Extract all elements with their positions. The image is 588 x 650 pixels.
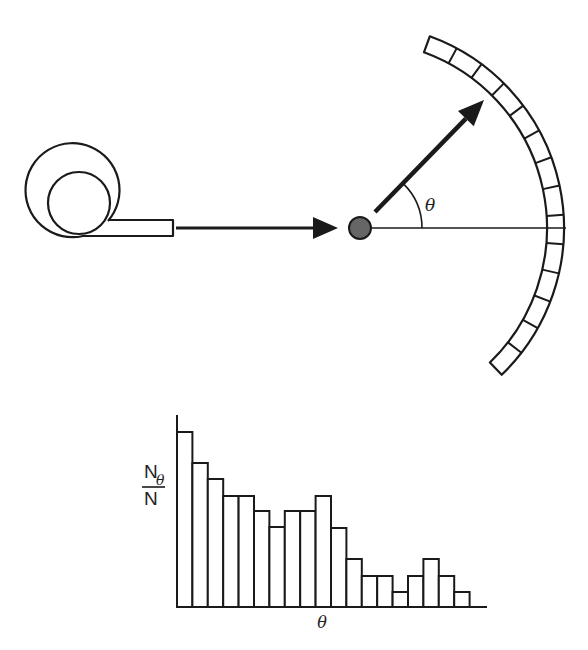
histogram-bar — [254, 511, 269, 607]
detector-segment-divider — [535, 157, 551, 163]
histogram-bar — [192, 463, 207, 607]
detector-segment-divider — [524, 130, 539, 138]
source-outer-path — [26, 143, 173, 237]
x-axis-label: θ — [317, 613, 327, 632]
angular-distribution-histogram: θNθN — [142, 415, 487, 632]
histogram-bar — [300, 511, 315, 607]
detector-segment-divider — [523, 320, 538, 328]
angle-arc — [403, 184, 422, 228]
histogram-bar — [269, 527, 284, 607]
histogram-bar — [331, 528, 346, 607]
incident-beam-arrow-icon — [176, 217, 338, 239]
histogram-bar — [393, 592, 408, 607]
y-axis-label-subscript: θ — [156, 472, 165, 488]
detector-segment-divider — [492, 83, 504, 95]
detector-segment-divider — [510, 106, 524, 116]
experiment-schematic: θ — [26, 36, 566, 374]
y-axis-label-denominator: N — [144, 488, 158, 509]
detector-segment-divider — [547, 215, 564, 216]
detector-segment-divider — [471, 64, 481, 78]
histogram-bar — [408, 576, 423, 607]
histogram-bar — [454, 592, 469, 607]
histogram-bar — [285, 511, 300, 607]
histogram-bar — [208, 479, 223, 607]
histogram-bar — [377, 576, 392, 607]
target-nucleus-icon — [349, 217, 371, 239]
detector-segment-divider — [508, 342, 521, 352]
angle-theta-label: θ — [425, 195, 435, 215]
detector-segment-divider — [546, 243, 563, 244]
histogram-bar — [239, 496, 254, 607]
detector-segment-divider — [534, 295, 550, 301]
beam-source-icon — [26, 143, 173, 237]
histogram-bar — [223, 496, 238, 607]
histogram-bar — [316, 496, 331, 607]
detector-segment-divider — [449, 48, 457, 63]
histogram-bar — [439, 576, 454, 607]
detector-outline — [424, 36, 564, 374]
detector-segment-divider — [542, 270, 559, 274]
scattering-diagram: θ θNθN — [0, 0, 588, 650]
histogram-bar — [362, 576, 377, 607]
histogram-bar — [177, 432, 192, 607]
detector-segment-divider — [543, 186, 560, 190]
histogram-bar — [423, 559, 438, 607]
histogram-bar — [346, 559, 361, 607]
source-inner-ring — [48, 172, 110, 234]
detector-array — [424, 36, 564, 374]
